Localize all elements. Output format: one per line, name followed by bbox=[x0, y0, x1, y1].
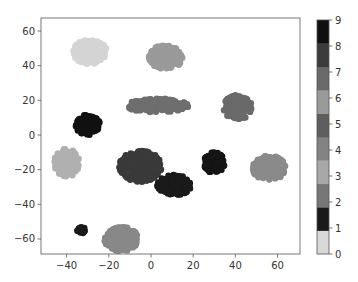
colorbar-segment-1 bbox=[317, 207, 329, 231]
y-tick-label: −40 bbox=[14, 199, 35, 210]
colorbar-segment-2 bbox=[317, 184, 329, 208]
colorbar-tick-label: 0 bbox=[335, 249, 341, 260]
colorbar-tick-label: 2 bbox=[335, 197, 341, 208]
y-tick-label: 20 bbox=[22, 95, 35, 106]
colorbar-segment-0 bbox=[317, 231, 329, 255]
y-tick-label: 40 bbox=[22, 60, 35, 71]
colorbar-tick-label: 7 bbox=[335, 67, 341, 78]
colorbar-segment-9 bbox=[317, 20, 329, 44]
y-tick-label: 0 bbox=[29, 130, 35, 141]
x-tick-label: −20 bbox=[98, 260, 119, 271]
y-tick-label: −20 bbox=[14, 164, 35, 175]
colorbar-tick-label: 4 bbox=[335, 145, 341, 156]
tsne-scatter-chart: −40−200204060 −60−40−200204060 012345678… bbox=[0, 0, 358, 282]
colorbar-tick-label: 8 bbox=[335, 41, 341, 52]
colorbar-segment-4 bbox=[317, 137, 329, 161]
colorbar-tick-label: 9 bbox=[335, 15, 341, 26]
x-tick-label: 20 bbox=[187, 260, 200, 271]
colorbar-segment-6 bbox=[317, 90, 329, 114]
colorbar-tick-label: 6 bbox=[335, 93, 341, 104]
x-tick-label: 40 bbox=[229, 260, 242, 271]
colorbar-tick-label: 5 bbox=[335, 119, 341, 130]
colorbar-segment-5 bbox=[317, 114, 329, 138]
colorbar-tick-label: 1 bbox=[335, 223, 341, 234]
colorbar-segment-8 bbox=[317, 43, 329, 67]
x-tick-label: 0 bbox=[148, 260, 154, 271]
colorbar-segment-7 bbox=[317, 67, 329, 91]
x-tick-label: 60 bbox=[271, 260, 284, 271]
colorbar-segment-3 bbox=[317, 160, 329, 184]
colorbar-tick-label: 3 bbox=[335, 171, 341, 182]
y-tick-label: 60 bbox=[22, 26, 35, 37]
y-tick-label: −60 bbox=[14, 233, 35, 244]
x-tick-label: −40 bbox=[56, 260, 77, 271]
